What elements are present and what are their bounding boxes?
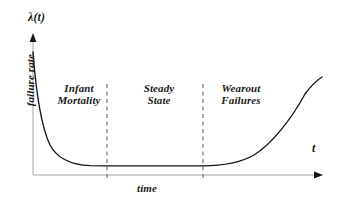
- region-label-line2: State: [130, 94, 188, 106]
- region-label-wearout-failures: WearoutFailures: [208, 82, 274, 107]
- bathtub-curve-figure: λ(t) failure rate t time InfantMortality…: [0, 0, 339, 204]
- region-label-line1: Steady: [144, 82, 175, 94]
- y-axis-label: failure rate: [4, 74, 30, 86]
- region-label-line1: Infant: [64, 82, 93, 94]
- x-axis-label: time: [137, 182, 157, 194]
- region-label-infant-mortality: InfantMortality: [50, 82, 108, 107]
- x-axis-symbol: t: [312, 142, 315, 155]
- x-axis-arrowhead: [314, 172, 323, 179]
- region-label-steady-state: SteadyState: [130, 82, 188, 107]
- region-label-line2: Mortality: [50, 94, 108, 106]
- y-axis-label-text: failure rate: [24, 54, 36, 106]
- y-axis-symbol: λ(t): [28, 11, 45, 24]
- failure-rate-curve: [33, 52, 322, 166]
- y-axis-arrowhead: [30, 33, 37, 42]
- region-label-line2: Failures: [208, 94, 274, 106]
- region-label-line1: Wearout: [221, 82, 260, 94]
